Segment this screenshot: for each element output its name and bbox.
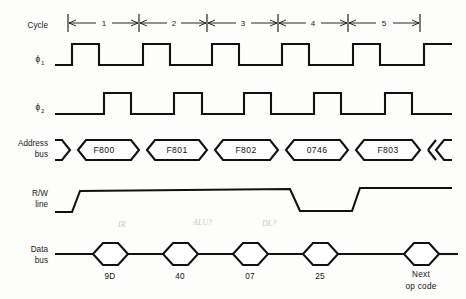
cycle-number-1: 1: [102, 19, 107, 28]
row-label-phi2-subscript: 2: [41, 108, 45, 114]
cycle-number-5: 5: [382, 19, 387, 28]
address-bus-value-2: F801: [166, 145, 187, 155]
row-label-data-line2: bus: [35, 256, 48, 265]
address-bus-waveform: F800 F801 F802 0746 F803: [55, 140, 452, 160]
data-bus-value-2: 40: [175, 272, 185, 281]
pencil-annotation-1: IR: [117, 220, 126, 229]
waveform-phi2: [55, 93, 452, 114]
cycle-number-3: 3: [241, 19, 246, 28]
address-bus-value-5: F803: [377, 145, 398, 155]
cycle-number-4: 4: [311, 19, 316, 28]
row-label-rw-line2: line: [35, 200, 48, 209]
address-bus-value-3: F802: [235, 145, 256, 155]
data-bus-value-3: 07: [245, 272, 255, 281]
address-bus-value-1: F800: [93, 145, 114, 155]
pencil-annotation-2: ALU?: [192, 218, 212, 227]
row-label-rw-line1: R/W: [32, 189, 48, 198]
data-bus-value-1: 9D: [104, 272, 115, 281]
row-label-data-line1: Data: [31, 245, 49, 254]
row-label-phi1: ϕ: [35, 55, 40, 64]
pencil-annotation-3: DL?: [261, 219, 276, 228]
timing-diagram: Cycle ϕ 1 ϕ 2 Address bus R/W line Data …: [0, 0, 466, 299]
row-label-phi1-subscript: 1: [41, 60, 45, 66]
data-bus-value-5-line2: op code: [405, 282, 436, 291]
data-bus-waveform: 9D 40 07 25 Next op code: [55, 243, 458, 291]
data-bus-value-4: 25: [315, 272, 325, 281]
row-label-cycle: Cycle: [28, 21, 49, 30]
waveform-phi1: [55, 44, 452, 65]
row-label-address-bus-line2: bus: [35, 150, 48, 159]
row-label-address-bus-line1: Address: [18, 139, 48, 148]
address-bus-value-4: 0746: [307, 145, 328, 155]
waveform-rw-line: [55, 188, 452, 212]
data-bus-value-5-line1: Next: [412, 270, 430, 279]
cycle-number-2: 2: [172, 19, 177, 28]
row-label-phi2: ϕ: [35, 103, 40, 112]
pencil-annotations: IR ALU? DL?: [117, 218, 276, 229]
cycle-ruler: 1 2 3 4 5: [68, 14, 420, 32]
